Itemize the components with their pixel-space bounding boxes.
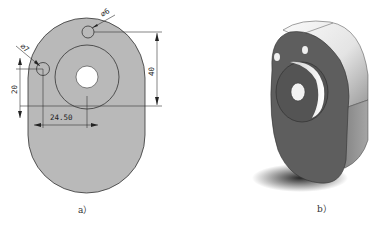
center-hole [76,66,98,88]
model-hole-left [274,53,280,61]
part-drawing-2d: ⌀6 ⌀7 40 20 24.50 [0,0,200,228]
dim-24-50: 24.50 [50,113,73,122]
panel-b-3d-model [230,0,382,228]
arrow-40-top [155,33,159,41]
dim-20: 20 [10,84,19,94]
caption-b: b） [317,202,332,215]
part-outline [28,18,145,193]
panel-a-2d-drawing: ⌀6 ⌀7 40 20 24.50 [0,0,200,228]
arrow-40-bottom [155,97,159,105]
caption-a: a） [78,203,92,216]
part-model-3d [230,0,382,228]
model-hole-top [302,46,308,54]
arrow-20-top [18,58,22,65]
arrow-20-bottom [18,111,22,118]
dim-hole-left-7: ⌀7 [18,42,31,55]
dim-40: 40 [147,66,156,76]
dim-hole-top-6: ⌀6 [99,6,112,19]
model-center-hole [291,83,305,101]
